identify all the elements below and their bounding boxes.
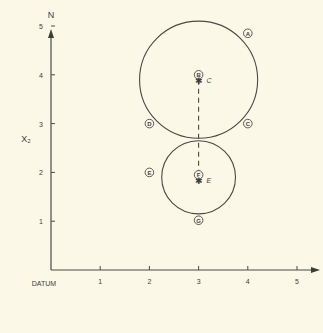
marker-e: E bbox=[145, 168, 154, 177]
y-tick-label: 5 bbox=[39, 23, 43, 30]
y-axis-arrow-icon bbox=[48, 29, 54, 38]
x-tick-label: 1 bbox=[98, 278, 102, 285]
marker-c: C bbox=[244, 119, 253, 128]
marker-d: D bbox=[145, 119, 154, 128]
x-tick-label: 5 bbox=[295, 278, 299, 285]
y-axis-label: N bbox=[48, 10, 55, 20]
axes: N X₂ DATUM bbox=[21, 10, 320, 287]
marker-letter: E bbox=[147, 170, 151, 176]
y-tick-label: 1 bbox=[39, 218, 43, 225]
origin-label: DATUM bbox=[32, 280, 57, 287]
x-tick-label: 4 bbox=[246, 278, 250, 285]
x-axis-arrow-icon bbox=[311, 267, 320, 273]
center-letter-label: C bbox=[207, 77, 213, 84]
marker-g: G bbox=[194, 216, 203, 225]
marker-letter: G bbox=[196, 218, 201, 224]
center-letter-label: E bbox=[207, 177, 212, 184]
y-tick-label: 3 bbox=[39, 121, 43, 128]
x-side-label: X₂ bbox=[21, 134, 31, 144]
marker-letter: C bbox=[246, 121, 251, 127]
marker-letter: A bbox=[246, 31, 251, 37]
ticks: 1234512345 bbox=[39, 23, 299, 285]
y-tick-label: 4 bbox=[39, 72, 43, 79]
x-tick-label: 2 bbox=[147, 278, 151, 285]
x-tick-label: 3 bbox=[197, 278, 201, 285]
marker-a: A bbox=[244, 29, 253, 38]
y-tick-label: 2 bbox=[39, 169, 43, 176]
marker-letter: D bbox=[147, 121, 152, 127]
diagram-canvas: N X₂ DATUM 1234512345 ADCEGB✱CF✱E bbox=[0, 0, 323, 333]
centroid-star-icon: ✱ bbox=[195, 176, 203, 186]
centroid-star-icon: ✱ bbox=[195, 76, 203, 86]
